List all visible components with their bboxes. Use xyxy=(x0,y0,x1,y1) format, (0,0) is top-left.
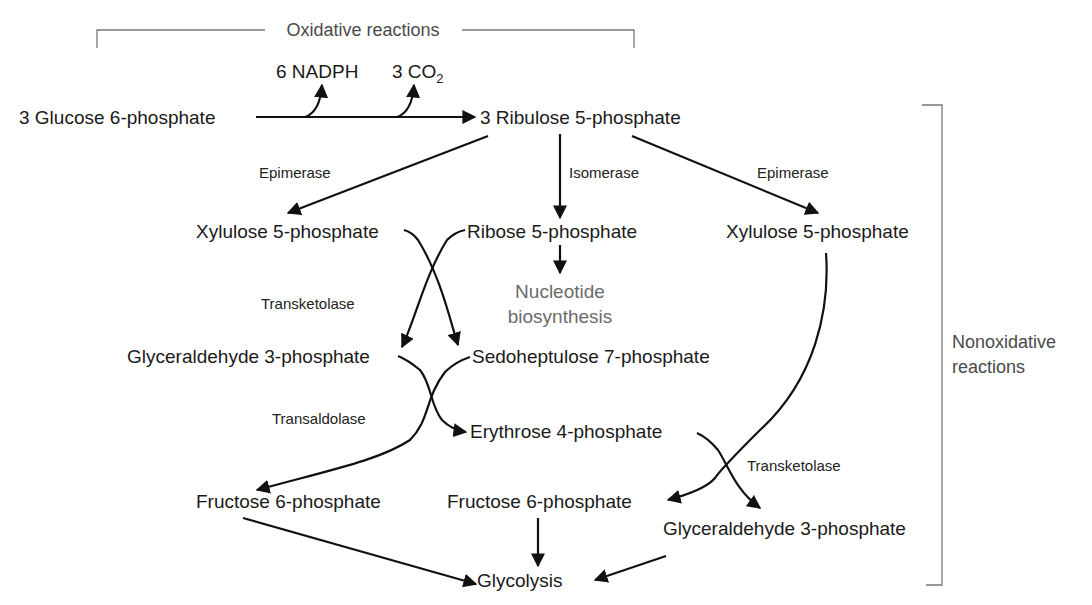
node-glycolysis: Glycolysis xyxy=(477,570,563,591)
enzyme-transketolase-2: Transketolase xyxy=(747,457,841,474)
oxidative-reactions-label: Oxidative reactions xyxy=(286,20,439,40)
node-sedoheptulose-7-phosphate: Sedoheptulose 7-phosphate xyxy=(472,346,710,367)
arrow-xylulose-to-sedoheptulose xyxy=(404,230,458,345)
node-fructose-6-phosphate-left: Fructose 6-phosphate xyxy=(196,491,381,512)
oxidative-bracket: Oxidative reactions xyxy=(97,20,634,48)
arrow-fructose-left-to-glycolysis xyxy=(243,518,476,584)
node-ribose-5-phosphate: Ribose 5-phosphate xyxy=(467,221,637,242)
nadph-product: 6 NADPH xyxy=(276,61,358,82)
enzyme-isomerase: Isomerase xyxy=(569,164,639,181)
enzyme-transketolase-1: Transketolase xyxy=(261,295,355,312)
nonoxidative-label-line1: Nonoxidative xyxy=(952,332,1056,352)
nadph-branch-arrow xyxy=(305,85,322,117)
enzyme-transaldolase: Transaldolase xyxy=(272,410,366,427)
arrow-glyceraldehyde-right-to-glycolysis xyxy=(595,556,666,580)
nonoxidative-label-line2: reactions xyxy=(952,357,1025,377)
enzyme-epimerase-left: Epimerase xyxy=(259,164,331,181)
node-glyceraldehyde-3-phosphate-right: Glyceraldehyde 3-phosphate xyxy=(663,518,906,539)
pathway-diagram: Oxidative reactions Nonoxidative reactio… xyxy=(0,0,1092,605)
node-xylulose-5-phosphate-left: Xylulose 5-phosphate xyxy=(196,221,379,242)
co2-branch-arrow xyxy=(397,85,414,117)
node-xylulose-5-phosphate-right: Xylulose 5-phosphate xyxy=(726,221,909,242)
node-nucleotide-biosynthesis-line1: Nucleotide xyxy=(515,281,605,302)
co2-product: 3 CO2 xyxy=(392,61,444,86)
nonoxidative-bracket: Nonoxidative reactions xyxy=(922,105,1056,585)
node-erythrose-4-phosphate: Erythrose 4-phosphate xyxy=(470,421,662,442)
node-glucose-6-phosphate: 3 Glucose 6-phosphate xyxy=(19,107,215,128)
arrow-ribose-to-glyceraldehyde xyxy=(402,230,465,347)
node-nucleotide-biosynthesis-line2: biosynthesis xyxy=(508,306,613,327)
node-ribulose-5-phosphate: 3 Ribulose 5-phosphate xyxy=(480,107,681,128)
node-fructose-6-phosphate-mid: Fructose 6-phosphate xyxy=(447,491,632,512)
node-glyceraldehyde-3-phosphate-left: Glyceraldehyde 3-phosphate xyxy=(127,346,370,367)
enzyme-epimerase-right: Epimerase xyxy=(757,164,829,181)
